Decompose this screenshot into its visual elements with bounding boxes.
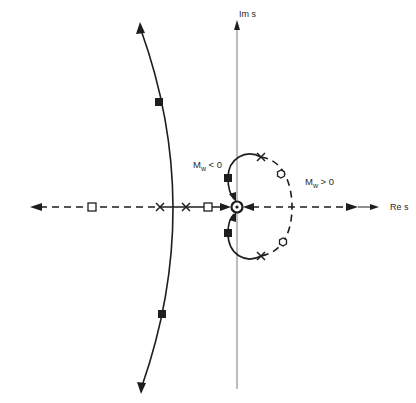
imag-axis-arrow-icon [234,20,240,30]
filled-square-icon [224,229,232,237]
filled-square-icon [224,174,232,182]
left-curved-branch [136,22,173,394]
arrow-left-icon [30,203,42,211]
mw-positive-rel: > 0 [318,176,334,187]
real-axis-label: Re s [390,202,409,212]
arrow-right-icon [346,203,358,211]
imag-axis-label: Im s [239,9,256,19]
real-axis-right-branch [243,203,379,211]
open-square-icon [204,203,212,211]
mw-positive-label: Mw > 0 [305,176,334,189]
arrow-left-icon [243,203,254,211]
markers [88,98,287,318]
mw-negative-rel: < 0 [206,159,222,170]
open-square-icon [88,203,96,211]
open-hexagon-icon [278,170,285,178]
mw-positive-base: M [305,176,313,187]
arrow-right-icon [220,203,231,211]
root-locus-diagram: Im s Re s Mw < 0 Mw > 0 [0,0,416,403]
open-hexagon-icon [280,238,287,246]
mw-negative-base: M [193,159,201,170]
filled-square-icon [158,310,166,318]
mw-negative-label: Mw < 0 [193,159,222,172]
arrow-down-icon [137,382,146,394]
origin-dot-icon [235,205,238,208]
real-axis-left-branch [30,203,231,211]
arrow-up-icon [136,22,145,34]
real-axis-arrow-icon [370,204,379,210]
filled-square-icon [155,98,163,106]
